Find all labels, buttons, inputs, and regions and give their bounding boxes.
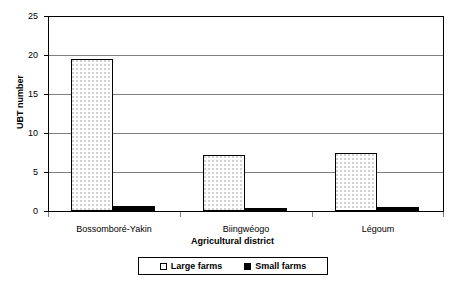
x-tick-mark-1 (180, 212, 181, 217)
legend-entry-small-farms: Small farms (244, 261, 306, 271)
legend-entry-large-farms: Large farms (160, 261, 223, 271)
y-tick-label-10: 10 (16, 129, 38, 138)
legend-swatch-filled-square-icon (244, 263, 251, 270)
x-category-label-2: Biingwéogo (180, 224, 312, 234)
y-tick-label-0: 0 (16, 207, 38, 216)
x-tick-mark-end (443, 212, 444, 217)
plot-area (48, 16, 444, 212)
x-category-label-1: Bossomboré-Yakin (48, 224, 180, 234)
bar-large-farms-bossombore-yakin (71, 59, 113, 211)
x-tick-mark-start (48, 212, 49, 217)
chart-legend: Large farms Small farms (138, 257, 328, 275)
bar-large-farms-biingweogo (203, 155, 245, 211)
y-tick-label-25: 25 (16, 12, 38, 21)
bar-chart: UBT number 25 20 15 10 5 0 Bossomboré-Ya… (0, 0, 465, 287)
x-tick-mark-2 (312, 212, 313, 217)
y-tick-label-20: 20 (16, 51, 38, 60)
x-category-label-3: Légoum (312, 224, 444, 234)
legend-label-large-farms: Large farms (171, 261, 223, 271)
y-tick-label-5: 5 (16, 168, 38, 177)
legend-label-small-farms: Small farms (255, 261, 306, 271)
bar-small-farms-biingweogo (245, 208, 287, 211)
y-tick-label-15: 15 (16, 90, 38, 99)
x-axis-title: Agricultural district (0, 236, 465, 246)
gridline-20 (49, 55, 443, 56)
legend-swatch-open-square-icon (160, 263, 167, 270)
bar-large-farms-legoum (335, 153, 377, 211)
bar-small-farms-legoum (377, 207, 419, 211)
bar-small-farms-bossombore-yakin (113, 206, 155, 211)
